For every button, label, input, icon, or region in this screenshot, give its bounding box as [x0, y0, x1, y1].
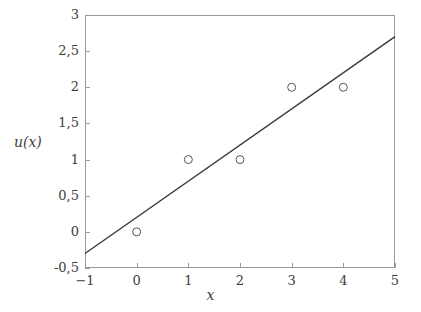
y-tick-mark: [85, 196, 90, 197]
x-tick-mark: [292, 263, 293, 268]
y-tick-label: 1: [0, 153, 79, 166]
y-tick-label: 3: [0, 8, 79, 21]
x-tick-label: 1: [168, 274, 208, 287]
y-tick-mark: [85, 123, 90, 124]
data-point-marker: [184, 156, 192, 164]
y-tick-label: 0: [0, 225, 79, 238]
plot-data-layer: [85, 15, 395, 268]
data-point-markers: [133, 83, 348, 236]
x-axis-label: x: [0, 288, 421, 302]
x-tick-label: 5: [375, 274, 415, 287]
y-tick-mark: [85, 160, 90, 161]
x-tick-mark: [85, 263, 86, 268]
y-tick-mark: [85, 51, 90, 52]
x-tick-mark: [395, 263, 396, 268]
x-tick-label: 4: [323, 274, 363, 287]
y-tick-mark: [85, 87, 90, 88]
data-point-marker: [133, 228, 141, 236]
x-tick-label: 3: [272, 274, 312, 287]
x-tick-label: 0: [117, 274, 157, 287]
y-tick-mark: [85, 15, 90, 16]
y-tick-mark: [85, 268, 90, 269]
data-point-marker: [288, 83, 296, 91]
x-tick-mark: [240, 263, 241, 268]
y-tick-label: -0,5: [0, 261, 79, 274]
x-tick-mark: [343, 263, 344, 268]
x-tick-label: −1: [65, 274, 105, 287]
linear-fit-line: [85, 37, 395, 254]
data-point-marker: [236, 156, 244, 164]
fit-line-segment: [85, 37, 395, 254]
x-tick-label: 2: [220, 274, 260, 287]
figure-canvas: -0,500,511,522,53 −1012345 u(x) x: [0, 0, 421, 312]
y-tick-mark: [85, 232, 90, 233]
x-tick-mark: [188, 263, 189, 268]
x-tick-mark: [137, 263, 138, 268]
data-point-marker: [339, 83, 347, 91]
y-tick-label: 1,5: [0, 116, 79, 129]
y-tick-label: 2,5: [0, 44, 79, 57]
y-tick-label: 2: [0, 80, 79, 93]
y-tick-label: 0,5: [0, 189, 79, 202]
y-axis-label: u(x): [14, 135, 42, 149]
